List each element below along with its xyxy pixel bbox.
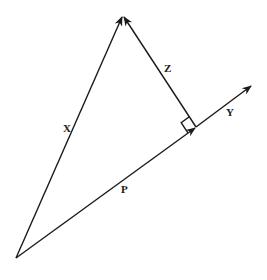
label-y: Y (226, 106, 234, 118)
vector-p-line (16, 128, 195, 258)
label-x: X (63, 122, 71, 134)
label-z: Z (164, 62, 171, 74)
vector-x-line (16, 17, 122, 258)
vector-diagram: X Z P Y (0, 0, 267, 280)
vector-z-line (124, 17, 196, 127)
right-angle-marker (181, 117, 189, 133)
vector-y-line (196, 86, 251, 127)
label-p: P (121, 183, 128, 195)
